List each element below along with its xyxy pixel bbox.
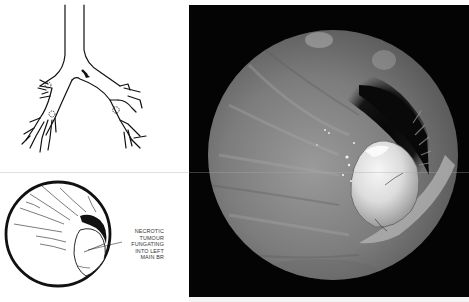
bronchoscopic-photograph [189,5,469,297]
figure-caption: NECROTIC TUMOUR FUNGATING INTO LEFT MAIN… [120,228,164,261]
caption-line: MAIN BR [120,254,164,261]
caption-line: INTO LEFT [120,248,164,255]
document-page: NECROTIC TUMOUR FUNGATING INTO LEFT MAIN… [0,0,469,302]
caption-line: NECROTIC [120,228,164,235]
page-margin [189,297,469,302]
caption-line: FUNGATING [120,241,164,248]
caption-line: TUMOUR [120,235,164,242]
arrow-marker-icon [82,70,90,78]
bronchial-tree-diagram [0,0,188,172]
diagram-panel: NECROTIC TUMOUR FUNGATING INTO LEFT MAIN… [0,0,188,302]
scan-artifact-line [0,172,469,173]
